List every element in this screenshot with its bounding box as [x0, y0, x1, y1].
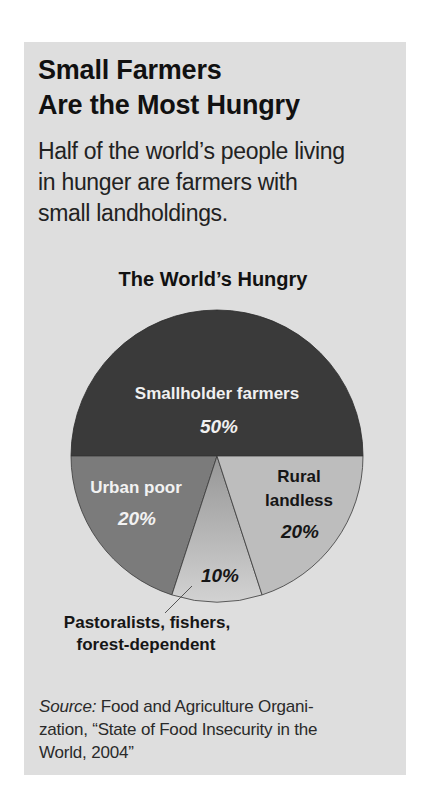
label-pastoral-name-2: forest-dependent [77, 635, 216, 654]
label-pastoral-name-1: Pastoralists, fishers, [64, 613, 230, 632]
label-rural-name-1: Rural [277, 467, 320, 486]
pie-chart: Smallholder farmers 50% Urban poor 20% R… [0, 0, 429, 805]
label-smallholder-name: Smallholder farmers [135, 384, 299, 403]
label-rural-pct: 20% [280, 521, 319, 542]
label-rural-name-2: landless [265, 491, 333, 510]
label-urban-name: Urban poor [90, 478, 182, 497]
label-pastoral-pct: 10% [201, 565, 239, 586]
label-urban-pct: 20% [117, 508, 156, 529]
label-smallholder-pct: 50% [200, 416, 238, 437]
